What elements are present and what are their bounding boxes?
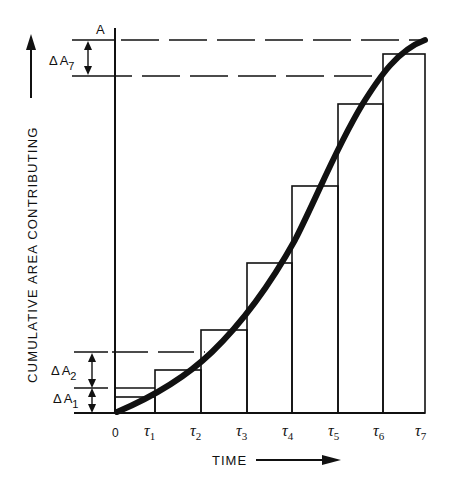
step-bars [115,54,425,413]
svg-text:τ1: τ1 [144,422,155,442]
svg-text:τ4: τ4 [282,422,294,442]
tau-labels: τ1 τ2 τ3 τ4 τ5 τ6 τ7 [144,422,427,442]
label-origin: 0 [112,426,119,440]
delta-a7-arrow [84,41,92,75]
label-delta-a1: ΔA1 [53,391,78,410]
time-area-diagram: A ΔA7 ΔA2 ΔA1 0 τ1 τ2 τ3 τ4 τ5 τ6 τ7 TIM… [0,0,457,491]
bar-5 [292,186,338,413]
bar-7 [383,54,425,413]
label-delta-a7: ΔA7 [49,53,74,72]
svg-text:τ7: τ7 [415,422,427,442]
delta-a2-arrow [88,353,96,388]
delta-a1-arrow [88,388,96,413]
y-axis-title: CUMULATIVE AREA CONTRIBUTING [25,126,40,383]
bar-6 [338,104,383,413]
svg-text:τ6: τ6 [373,422,385,442]
y-axis-arrow [26,34,36,98]
cumulative-area-curve [117,40,425,412]
label-a: A [96,22,105,37]
time-arrow [256,455,341,465]
svg-text:τ3: τ3 [236,422,248,442]
label-delta-a2: ΔA2 [51,363,76,382]
svg-text:τ2: τ2 [190,422,201,442]
x-axis-title: TIME [212,453,247,468]
svg-text:τ5: τ5 [328,422,340,442]
